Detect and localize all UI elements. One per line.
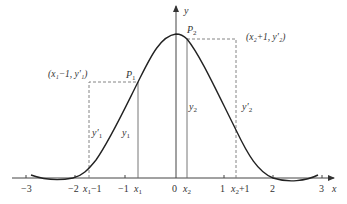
label-p1: P1 bbox=[125, 69, 136, 82]
coord-label-right: (x₂+1, y′₂) bbox=[246, 32, 285, 43]
solid-verticals bbox=[138, 39, 187, 178]
tick-label-0: 0 bbox=[172, 183, 177, 194]
bell-curve bbox=[31, 34, 318, 181]
label-x2: x2 bbox=[182, 183, 191, 196]
label-x2-plus-1: x2+1 bbox=[230, 183, 250, 196]
tick-label-minus-3: −3 bbox=[21, 183, 32, 194]
dashed-guides bbox=[89, 39, 236, 178]
label-x1-minus-1: x1−1 bbox=[82, 183, 102, 196]
label-y1-prime: y′1 bbox=[91, 127, 103, 140]
x-axis-label: x bbox=[331, 183, 337, 194]
label-y2-prime: y′2 bbox=[241, 101, 253, 114]
tick-label-3: 3 bbox=[319, 183, 324, 194]
tick-label-minus-1: −1 bbox=[118, 183, 129, 194]
coord-label-left: (x₁−1, y′₁) bbox=[48, 69, 87, 80]
y-axis-label: y bbox=[183, 5, 189, 16]
label-y1: y1 bbox=[121, 127, 130, 140]
label-y2: y2 bbox=[188, 101, 197, 114]
tick-label-minus-2: −2 bbox=[68, 183, 79, 194]
label-x1: x1 bbox=[133, 183, 142, 196]
tick-label-2: 2 bbox=[270, 183, 275, 194]
label-p2: P2 bbox=[186, 24, 197, 37]
diagram-svg: y x −3 −2 −1 0 1 2 3 x1−1 x1 x2 x2+1 P1 … bbox=[0, 0, 347, 204]
diagram-canvas: y x −3 −2 −1 0 1 2 3 x1−1 x1 x2 x2+1 P1 … bbox=[0, 0, 347, 204]
tick-label-1: 1 bbox=[220, 183, 225, 194]
